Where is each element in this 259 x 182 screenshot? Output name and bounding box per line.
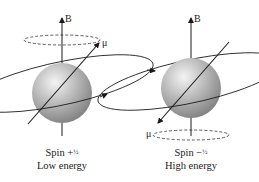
spin-down-panel (98, 18, 259, 140)
spin-up-caption: Spin +½ Low energy (17, 146, 107, 172)
b-field-label: B (194, 13, 201, 24)
energy-level: High energy (146, 159, 236, 172)
energy-level: Low energy (17, 159, 107, 172)
nucleus-sphere (32, 63, 92, 123)
spin-value: Spin −½ (146, 146, 236, 159)
spin-down-caption: Spin −½ High energy (146, 146, 236, 172)
spin-direction-arrow-icon (147, 70, 155, 71)
b-field-label: B (65, 13, 72, 24)
spin-value: Spin +½ (17, 146, 107, 159)
magnetic-moment-label: μ (146, 128, 151, 139)
magnetic-moment-label: μ (102, 37, 107, 48)
